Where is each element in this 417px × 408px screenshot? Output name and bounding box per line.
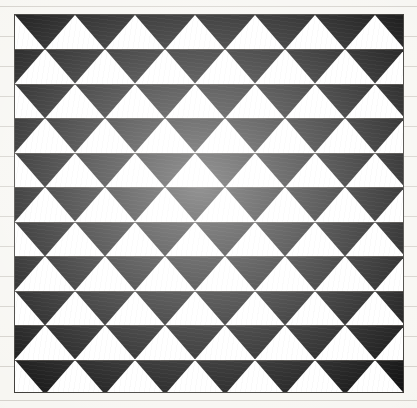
triangle-down [195,153,255,187]
band-separator-line [15,153,403,154]
band-separator-line [15,84,403,85]
band-separator-line [15,360,403,361]
triangle-row [15,118,403,152]
triangle-down [165,325,225,359]
band-separator-line [15,49,403,50]
triangle-down [15,15,75,49]
triangle-down [225,256,285,290]
triangle-down [165,256,225,290]
triangle-down [165,187,225,221]
triangle-down [105,325,165,359]
band-separator-line [15,291,403,292]
triangle-down [45,49,105,83]
triangle-down [135,84,195,118]
triangle-down [15,256,45,290]
triangle-down [255,360,315,393]
triangle-down [135,360,195,393]
triangle-down [15,118,45,152]
triangle-down [135,222,195,256]
triangle-down [105,118,165,152]
triangle-row [15,15,403,49]
triangle-down [105,49,165,83]
triangle-down [15,49,45,83]
triangle-down [315,291,375,325]
triangle-down [315,153,375,187]
triangle-down [135,153,195,187]
triangle-down [45,118,105,152]
triangle-down [315,15,375,49]
triangle-down [135,15,195,49]
triangle-row [15,153,403,187]
triangle-down [345,325,403,359]
triangle-down [375,360,403,393]
triangle-down [315,222,375,256]
triangle-down [45,256,105,290]
triangle-down [285,49,345,83]
band-separator-line [15,325,403,326]
triangle-down [195,222,255,256]
triangle-down [75,222,135,256]
triangle-down [195,360,255,393]
triangle-down [255,15,315,49]
triangle-down [225,118,285,152]
triangle-down [375,222,403,256]
triangle-down [165,118,225,152]
triangle-down [75,360,135,393]
triangle-down [345,49,403,83]
triangle-down [15,153,75,187]
triangle-down [45,325,105,359]
triangle-down [15,325,45,359]
triangle-down [75,15,135,49]
triangle-down [315,84,375,118]
triangle-down [105,187,165,221]
triangle-down [15,222,75,256]
triangle-down [135,291,195,325]
triangle-down [345,187,403,221]
triangle-row [15,291,403,325]
pattern-tessellation [15,15,403,392]
band-separator-line [15,118,403,119]
triangle-row [15,84,403,118]
triangle-down [315,360,375,393]
scanned-page: Black and white triangular tessellation [0,0,417,408]
triangle-row [15,49,403,83]
triangle-down [75,153,135,187]
triangle-down [165,49,225,83]
triangle-down [225,49,285,83]
triangle-down [255,291,315,325]
triangle-down [375,15,403,49]
triangle-down [255,153,315,187]
triangle-row [15,256,403,290]
triangle-down [195,291,255,325]
triangle-down [15,360,75,393]
triangle-down [375,84,403,118]
triangle-down [345,118,403,152]
triangle-down [285,187,345,221]
triangle-down [285,256,345,290]
triangle-down [225,325,285,359]
ruled-line [0,400,417,401]
triangle-down [15,291,75,325]
triangle-down [75,291,135,325]
band-separator-line [15,222,403,223]
triangle-row [15,360,403,393]
triangle-down [15,187,45,221]
triangle-row [15,187,403,221]
triangle-down [195,15,255,49]
triangle-down [225,187,285,221]
triangle-down [375,153,403,187]
triangle-row [15,325,403,359]
triangle-down [255,222,315,256]
band-separator-line [15,187,403,188]
triangle-down [45,187,105,221]
triangle-down [105,256,165,290]
triangle-down [195,84,255,118]
triangle-down [375,291,403,325]
triangle-row [15,222,403,256]
triangle-down [75,84,135,118]
ruled-line [0,6,417,7]
triangle-down [285,118,345,152]
triangle-down [15,84,75,118]
pattern-figure-frame [14,14,404,393]
triangle-down [285,325,345,359]
